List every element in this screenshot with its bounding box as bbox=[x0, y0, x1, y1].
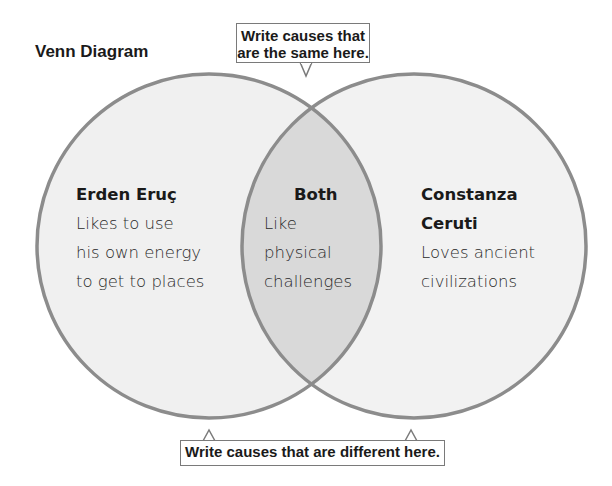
section-line: Like bbox=[264, 209, 352, 238]
section-erden-eruc: Erden Eruç Likes to use his own energy t… bbox=[76, 180, 204, 296]
section-line: civilizations bbox=[421, 267, 535, 296]
different-causes-callout: Write causes that are different here. bbox=[180, 440, 445, 466]
diagram-title: Venn Diagram bbox=[35, 42, 148, 62]
section-line: Likes to use bbox=[76, 209, 204, 238]
callout-line: Write causes that bbox=[237, 27, 369, 44]
section-line: his own energy bbox=[76, 238, 204, 267]
top-callout-pointer bbox=[300, 62, 312, 76]
section-both: Both Like physical challenges bbox=[264, 180, 352, 296]
section-line: challenges bbox=[264, 267, 352, 296]
section-heading: Constanza bbox=[421, 180, 535, 209]
section-line: physical bbox=[264, 238, 352, 267]
section-constanza-ceruti: Constanza Ceruti Loves ancient civilizat… bbox=[421, 180, 535, 296]
section-heading: Erden Eruç bbox=[76, 180, 204, 209]
section-heading: Ceruti bbox=[421, 209, 535, 238]
callout-line: are the same here. bbox=[237, 44, 369, 61]
section-heading: Both bbox=[264, 180, 352, 209]
section-line: Loves ancient bbox=[421, 238, 535, 267]
same-causes-callout: Write causes that are the same here. bbox=[236, 23, 370, 63]
section-line: to get to places bbox=[76, 267, 204, 296]
